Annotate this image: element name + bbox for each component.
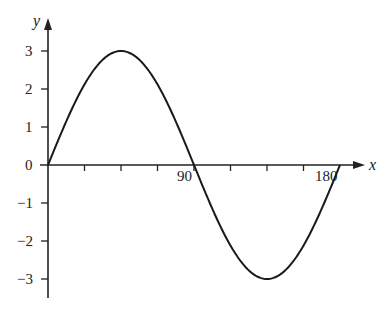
x-tick-label-90: 90: [177, 168, 192, 184]
y-tick-label-2: 2: [25, 81, 33, 97]
y-tick-label-neg1: −1: [17, 195, 33, 211]
origin-label: 0: [25, 157, 33, 173]
y-axis-arrow-icon: [44, 18, 52, 30]
sine-graph: y x 3 2 1 0 −1 −2 −3 90 180: [0, 0, 392, 309]
x-axis-label: x: [368, 156, 376, 173]
y-axis-label: y: [31, 12, 41, 30]
chart-canvas: y x 3 2 1 0 −1 −2 −3 90 180: [0, 0, 392, 309]
y-tick-label-neg2: −2: [17, 233, 33, 249]
x-axis-arrow-icon: [353, 161, 365, 169]
y-tick-label-3: 3: [25, 43, 33, 59]
y-tick-label-1: 1: [25, 119, 33, 135]
y-tick-label-neg3: −3: [17, 271, 33, 287]
